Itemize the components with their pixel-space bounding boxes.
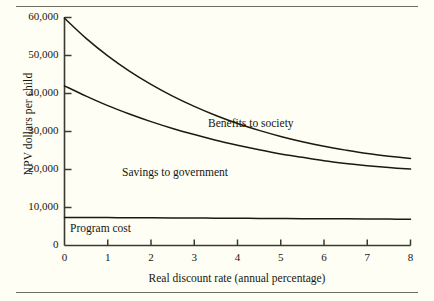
series-label-program-cost: Program cost bbox=[70, 222, 131, 234]
series-line-benefits-to-society bbox=[65, 18, 411, 158]
figure-container: NPV dollars per child Real discount rate… bbox=[0, 0, 434, 301]
series-label-benefits-to-society: Benefits to society bbox=[208, 117, 294, 129]
plot-area bbox=[0, 0, 434, 301]
series-line-program-cost bbox=[65, 217, 411, 219]
series-label-savings-to-government: Savings to government bbox=[122, 166, 228, 178]
axis-lines bbox=[65, 17, 411, 246]
axis-ticks bbox=[65, 18, 411, 246]
